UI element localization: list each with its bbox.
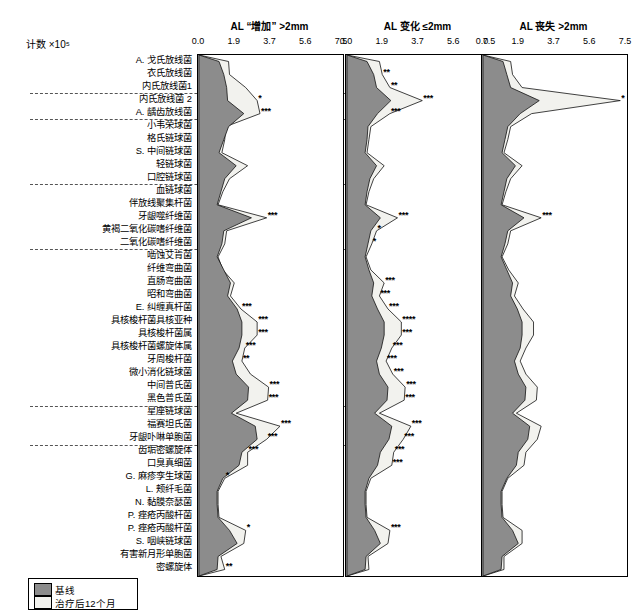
significance-marker: *** bbox=[395, 444, 405, 454]
significance-marker: *** bbox=[258, 327, 268, 337]
plot-panel-3 bbox=[481, 54, 628, 577]
panel-title-3: AL 丧失 >2mm bbox=[481, 18, 626, 33]
taxon-label: 具核梭杆菌具核亚种 bbox=[0, 315, 192, 326]
plot-panel-2 bbox=[345, 54, 492, 577]
significance-marker: *** bbox=[269, 392, 279, 402]
significance-marker: * bbox=[247, 522, 250, 532]
taxon-label: G. 麻疹孪生球菌 bbox=[0, 471, 192, 482]
taxon-label: 具核梭杆菌螺旋体属 bbox=[0, 341, 192, 352]
significance-marker: *** bbox=[249, 444, 259, 454]
significance-marker: *** bbox=[399, 210, 409, 220]
taxon-label: A. 戈氏放线菌 bbox=[0, 55, 192, 66]
taxon-label: 内氏放线菌 2 bbox=[0, 94, 192, 105]
significance-marker: *** bbox=[412, 418, 422, 428]
significance-marker: *** bbox=[391, 106, 401, 116]
significance-marker: *** bbox=[380, 288, 390, 298]
taxon-label: S. 中间链球菌 bbox=[0, 146, 192, 157]
significance-marker: * bbox=[373, 236, 376, 246]
taxon-label: 衣氏放线菌 bbox=[0, 68, 192, 79]
taxon-label: P. 痤疮丙酸杆菌 bbox=[0, 510, 192, 521]
x-tick: 1.9 bbox=[222, 36, 246, 46]
significance-marker: *** bbox=[393, 340, 403, 350]
legend-label-2: 治疗后12个月 bbox=[55, 596, 116, 610]
taxon-label: 有害新月形单胞菌 bbox=[0, 549, 192, 560]
significance-marker: *** bbox=[270, 379, 280, 389]
taxon-label: 牙周梭杆菌 bbox=[0, 354, 192, 365]
taxon-label: 伴放线聚集杆菌 bbox=[0, 198, 192, 209]
taxon-label: 口腔链球菌 bbox=[0, 172, 192, 183]
x-axis-ticks-panel-1: 0.01.93.75.67.5 bbox=[197, 36, 342, 48]
significance-marker: *** bbox=[542, 210, 552, 220]
legend-swatch-1 bbox=[34, 583, 52, 596]
significance-marker: *** bbox=[423, 93, 433, 103]
taxon-label: 格氏链球菌 bbox=[0, 133, 192, 144]
significance-marker: *** bbox=[385, 275, 395, 285]
significance-marker: * bbox=[258, 93, 261, 103]
taxon-label: 昭和弯曲菌 bbox=[0, 289, 192, 300]
taxon-label: 轻链球菌 bbox=[0, 159, 192, 170]
significance-marker: *** bbox=[268, 210, 278, 220]
panel-title-2: AL 变化 ≤2mm bbox=[345, 18, 490, 33]
taxon-label: 中间普氏菌 bbox=[0, 380, 192, 391]
taxon-label: L. 颊纤毛菌 bbox=[0, 484, 192, 495]
x-tick: 0.0 bbox=[470, 36, 494, 46]
x-tick: 3.7 bbox=[542, 36, 566, 46]
significance-marker: **** bbox=[402, 314, 415, 324]
x-tick: 0.0 bbox=[186, 36, 210, 46]
count-axis-label: 计数 ×10⁵ bbox=[26, 36, 70, 51]
x-tick: 7.5 bbox=[613, 36, 636, 46]
significance-marker: *** bbox=[261, 106, 271, 116]
plot-panel-1 bbox=[197, 54, 344, 577]
taxon-label: 啮蚀艾肯菌 bbox=[0, 250, 192, 261]
significance-marker: * bbox=[621, 93, 624, 103]
legend-label-1: 基线 bbox=[55, 583, 75, 597]
panel-title-1: AL “增加” >2mm bbox=[197, 18, 342, 33]
significance-marker: *** bbox=[281, 418, 291, 428]
taxon-label: 牙龈噬纤维菌 bbox=[0, 211, 192, 222]
x-tick: 3.7 bbox=[406, 36, 430, 46]
taxon-label: 纤维弯曲菌 bbox=[0, 263, 192, 274]
x-tick: 5.6 bbox=[441, 36, 465, 46]
significance-marker: *** bbox=[268, 431, 278, 441]
x-tick: 3.7 bbox=[258, 36, 282, 46]
significance-marker: *** bbox=[394, 366, 404, 376]
taxon-label: 黑色普氏菌 bbox=[0, 393, 192, 404]
taxon-label: 小韦荣球菌 bbox=[0, 120, 192, 131]
significance-marker: *** bbox=[406, 379, 416, 389]
taxon-label: 星座链球菌 bbox=[0, 406, 192, 417]
x-tick: 0.0 bbox=[334, 36, 358, 46]
taxon-label: 二氧化碳嗜纤维菌 bbox=[0, 237, 192, 248]
taxon-label: A. 龋齿放线菌 bbox=[0, 107, 192, 118]
x-tick: 1.9 bbox=[370, 36, 394, 46]
taxon-label: 血链球菌 bbox=[0, 185, 192, 196]
x-tick: 5.6 bbox=[293, 36, 317, 46]
x-axis-ticks-panel-2: 0.01.93.75.67.5 bbox=[345, 36, 490, 48]
x-tick: 5.6 bbox=[577, 36, 601, 46]
taxon-label: S. 咽峡链球菌 bbox=[0, 536, 192, 547]
x-axis-ticks-panel-3: 0.01.93.75.67.5 bbox=[481, 36, 626, 48]
taxon-label: 口臭真细菌 bbox=[0, 458, 192, 469]
x-tick: 1.9 bbox=[506, 36, 530, 46]
taxon-label: 微小消化链球菌 bbox=[0, 367, 192, 378]
taxon-label: 直肠弯曲菌 bbox=[0, 276, 192, 287]
significance-marker: ** bbox=[226, 561, 232, 571]
significance-marker: *** bbox=[246, 340, 256, 350]
taxon-label: 黄褐二氧化碳嗜纤维菌 bbox=[0, 224, 192, 235]
significance-marker: * bbox=[226, 470, 229, 480]
taxon-label: 牙龈卟啉单胞菌 bbox=[0, 432, 192, 443]
taxon-label: P. 痤疮丙酸杆菌 bbox=[0, 523, 192, 534]
taxon-label: 内氏放线菌1 bbox=[0, 81, 192, 92]
significance-marker: *** bbox=[258, 314, 268, 324]
significance-marker: *** bbox=[405, 392, 415, 402]
taxon-label: N. 黏膜奈瑟菌 bbox=[0, 497, 192, 508]
taxon-label: 福赛坦氏菌 bbox=[0, 419, 192, 430]
significance-marker: ** bbox=[391, 80, 397, 90]
taxon-label: 具核梭杆菌属 bbox=[0, 328, 192, 339]
significance-marker: ** bbox=[383, 67, 389, 77]
significance-marker: * bbox=[378, 223, 381, 233]
significance-marker: *** bbox=[404, 431, 414, 441]
significance-marker: *** bbox=[402, 327, 412, 337]
legend-swatch-2 bbox=[34, 596, 52, 609]
significance-marker: *** bbox=[393, 457, 403, 467]
